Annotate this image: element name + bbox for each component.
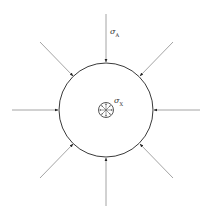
subscript: A <box>115 32 119 38</box>
arrow-bottom-left <box>40 144 73 178</box>
arrow-top-left <box>40 42 73 76</box>
arrow-top-right <box>140 42 173 76</box>
outer-stress-label: σA <box>110 28 119 38</box>
arrow-bottom-right <box>140 144 173 178</box>
stress-diagram <box>0 0 212 220</box>
inner-stress-label: σX <box>114 97 123 107</box>
internal-stress-arrows <box>100 104 113 117</box>
subscript: X <box>119 101 123 107</box>
